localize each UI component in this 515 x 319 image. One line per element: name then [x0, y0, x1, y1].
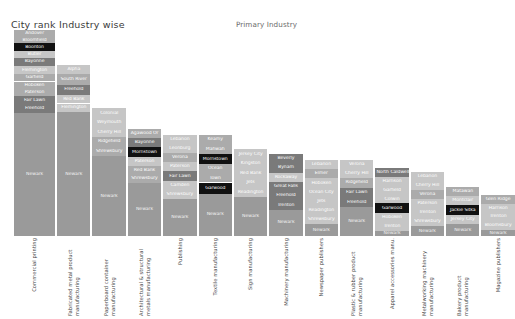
chart-segment[interactable]: Verona	[411, 190, 444, 199]
chart-segment[interactable]: Weymouth	[92, 118, 125, 128]
chart-segment[interactable]: Boonton	[14, 43, 55, 51]
chart-segment[interactable]: Beverly	[269, 154, 302, 163]
chart-segment[interactable]: Freehold	[269, 191, 302, 200]
chart-column[interactable]: North CaldwellHarrisonGarfieldColwinGarw…	[375, 168, 408, 236]
chart-segment[interactable]: Bloomsbury	[481, 221, 514, 230]
chart-segment[interactable]: Newark	[446, 224, 479, 236]
chart-column[interactable]: AndoverBloomfieldBoontonButlerBayonneFle…	[14, 30, 55, 236]
chart-column[interactable]: Glen RidgeHarrisonTrentonBloomsburyNewar…	[481, 195, 514, 236]
chart-segment[interactable]: Shrewsbury	[128, 174, 161, 183]
chart-segment[interactable]: Freehold	[340, 198, 373, 208]
chart-segment[interactable]: Trenton	[269, 201, 302, 210]
chart-segment[interactable]: Matawan	[446, 187, 479, 196]
chart-segment[interactable]: Newark	[481, 230, 514, 236]
chart-column[interactable]: MatawanMontclairJackie SitkaJersey CityN…	[446, 187, 479, 236]
chart-segment[interactable]: Town	[199, 173, 232, 182]
chart-segment[interactable]: Ridgefield	[340, 178, 373, 188]
chart-segment[interactable]: Rockaway	[269, 173, 302, 182]
chart-segment[interactable]: Jets	[234, 178, 267, 188]
chart-segment[interactable]: Fair Lawn	[14, 96, 55, 104]
chart-segment[interactable]: Trenton	[481, 213, 514, 222]
chart-segment[interactable]: Shrewsbury	[305, 215, 338, 224]
chart-segment[interactable]: Paterson	[411, 199, 444, 208]
chart-segment[interactable]: Keamy	[199, 135, 232, 145]
chart-segment[interactable]: Garwood	[199, 183, 232, 194]
chart-segment[interactable]: Newark	[305, 224, 338, 236]
chart-segment[interactable]: Newark	[57, 112, 90, 236]
chart-column[interactable]: LebanonLeonburgVeronaPatersonFair LawnCa…	[163, 135, 196, 236]
chart-segment[interactable]: Fair Lawn	[163, 171, 196, 181]
chart-segment[interactable]: Harrison	[375, 177, 408, 186]
chart-segment[interactable]: Readington	[234, 188, 267, 198]
chart-column[interactable]: VeronaCherry HillRidgefieldFair LawnFree…	[340, 160, 373, 236]
chart-segment[interactable]: Shrewsbury	[92, 147, 125, 157]
chart-segment[interactable]: Lebanon	[163, 135, 196, 144]
chart-segment[interactable]: Mahwah	[199, 145, 232, 155]
chart-segment[interactable]: Camden	[163, 181, 196, 190]
chart-segment[interactable]: Readington	[305, 206, 338, 215]
chart-segment[interactable]: Red Bank	[57, 95, 90, 104]
chart-segment[interactable]: Cherry Hill	[92, 127, 125, 137]
chart-segment[interactable]: Newark	[411, 226, 444, 236]
chart-segment[interactable]: Paterson	[128, 157, 161, 166]
chart-segment[interactable]: Newark	[92, 156, 125, 236]
chart-segment[interactable]: Hoboken	[14, 82, 55, 89]
chart-segment[interactable]: Elmer	[305, 169, 338, 179]
chart-segment[interactable]: Hoboken	[305, 178, 338, 187]
chart-segment[interactable]: Newark	[163, 199, 196, 236]
chart-segment[interactable]: Lebanon	[411, 172, 444, 181]
chart-segment[interactable]: Newark	[340, 207, 373, 236]
chart-segment[interactable]: Garfield	[14, 74, 55, 81]
chart-segment[interactable]: Red Bank	[234, 169, 267, 179]
chart-segment[interactable]: Bynam	[269, 163, 302, 172]
chart-segment[interactable]: Jackie Sitka	[446, 205, 479, 215]
chart-segment[interactable]: North Caldwell	[375, 168, 408, 177]
chart-segment[interactable]: Freehold	[57, 85, 90, 95]
chart-segment[interactable]: Paterson	[14, 89, 55, 96]
chart-segment[interactable]: Flemington	[14, 66, 55, 74]
chart-segment[interactable]: Flemington	[57, 104, 90, 113]
chart-column[interactable]: ColonialWeymouthCherry HillRidgefieldShr…	[92, 108, 125, 236]
chart-segment[interactable]: Morristown	[128, 147, 161, 157]
chart-segment[interactable]: Andover	[14, 30, 55, 37]
chart-segment[interactable]: Shrewsbury	[411, 217, 444, 226]
chart-segment[interactable]: Paterson	[163, 162, 196, 171]
chart-segment[interactable]: Newark	[234, 197, 267, 236]
chart-segment[interactable]: Great Falls	[269, 182, 302, 191]
chart-column[interactable]: AlphaSouth RiverFreeholdRed BankFlemingt…	[57, 65, 90, 236]
chart-segment[interactable]: Ocean	[199, 164, 232, 173]
chart-segment[interactable]: Colwin	[375, 195, 408, 204]
chart-segment[interactable]: Cherry Hill	[411, 181, 444, 190]
chart-segment[interactable]: Verona	[163, 153, 196, 162]
chart-segment[interactable]: Kingston	[234, 159, 267, 169]
chart-segment[interactable]: Garwood	[375, 203, 408, 213]
chart-segment[interactable]: Garfield	[375, 186, 408, 195]
chart-segment[interactable]: Shrewsbury	[163, 190, 196, 199]
chart-segment[interactable]: Harrison	[481, 204, 514, 213]
chart-segment[interactable]: Bayonne	[128, 138, 161, 147]
chart-segment[interactable]: Agawood Or	[128, 129, 161, 138]
chart-segment[interactable]: Ocean City	[305, 188, 338, 197]
chart-column[interactable]: KeamyMahwahMorristownOceanTownGarwoodNew…	[199, 135, 232, 236]
chart-segment[interactable]: Colonial	[92, 108, 125, 118]
chart-segment[interactable]: Glen Ridge	[481, 195, 514, 204]
chart-column[interactable]: Jersey CityKingstonRed BankJetsReadingto…	[234, 149, 267, 236]
chart-segment[interactable]: Lebanon	[305, 160, 338, 169]
chart-segment[interactable]: Hoboken	[375, 213, 408, 222]
chart-column[interactable]: LebanonCherry HillVeronaPatersonTrentonS…	[411, 172, 444, 236]
chart-column[interactable]: LebanonElmerHobokenOcean CityJetsReading…	[305, 160, 338, 236]
chart-column[interactable]: Agawood OrBayonneMorristownPatersonRed B…	[128, 129, 161, 236]
chart-segment[interactable]: Montclair	[446, 196, 479, 205]
chart-segment[interactable]: Trenton	[375, 222, 408, 231]
chart-segment[interactable]: Newark	[375, 231, 408, 236]
chart-segment[interactable]: Verona	[340, 160, 373, 169]
chart-segment[interactable]: Newark	[128, 183, 161, 236]
chart-segment[interactable]: Newark	[199, 194, 232, 236]
chart-segment[interactable]: Trenton	[411, 208, 444, 217]
chart-segment[interactable]: Cherry Hill	[340, 169, 373, 178]
chart-segment[interactable]: Morristown	[199, 154, 232, 164]
chart-segment[interactable]: Jets	[305, 197, 338, 206]
chart-segment[interactable]: Red Bank	[128, 166, 161, 175]
chart-column[interactable]: BeverlyBynamRockawayGreat FallsFreeholdT…	[269, 154, 302, 236]
chart-segment[interactable]: Fair Lawn	[340, 188, 373, 198]
